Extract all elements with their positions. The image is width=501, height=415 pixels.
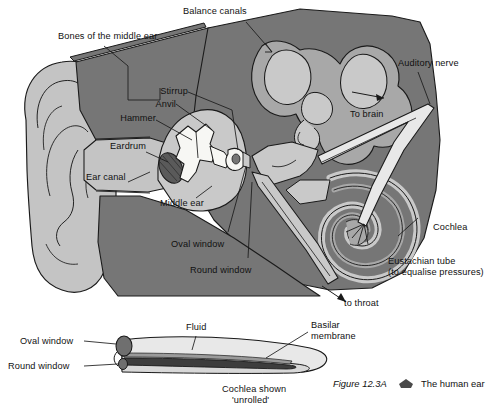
label-round-window-unrolled: Round window: [8, 361, 69, 372]
unrolled-cochlea-diagram: [114, 336, 327, 373]
label-ear-canal: Ear canal: [86, 172, 126, 183]
label-oval-window: Oval window: [171, 239, 224, 250]
label-auditory-nerve: Auditory nerve: [398, 58, 459, 69]
label-bones-of-the-middle-ear: Bones of the middle ear: [58, 31, 157, 42]
label-fluid: Fluid: [186, 322, 206, 333]
label-to-throat: to throat: [344, 298, 379, 309]
label-eustachian-tube: Eustachian tube: [388, 256, 455, 267]
figure-number: Figure 12.3A: [333, 378, 387, 389]
figure-title: The human ear: [421, 378, 485, 389]
label-anvil: Anvil: [86, 99, 176, 110]
label-balance-canals: Balance canals: [183, 6, 247, 17]
label-basilar-membrane-line1: Basilar: [311, 320, 340, 331]
label-eustachian-tube-note: (to equalise pressures): [388, 267, 484, 278]
pentagon-marker-icon: [398, 378, 414, 390]
label-middle-ear: Middle ear: [160, 198, 204, 209]
label-round-window: Round window: [190, 265, 251, 276]
label-cochlea-unrolled-line1: Cochlea shown: [222, 384, 286, 395]
label-eardrum: Eardrum: [56, 141, 146, 152]
label-cochlea: Cochlea: [433, 222, 467, 233]
label-cochlea-unrolled-line2: 'unrolled': [232, 395, 269, 406]
label-stirrup: Stirrup: [98, 86, 188, 97]
label-basilar-membrane-line2: membrane: [311, 331, 356, 342]
figure-human-ear: Balance canals Bones of the middle ear S…: [0, 0, 501, 415]
label-hammer: Hammer: [66, 113, 156, 124]
label-oval-window-unrolled: Oval window: [20, 336, 73, 347]
label-to-brain: To brain: [350, 109, 383, 120]
